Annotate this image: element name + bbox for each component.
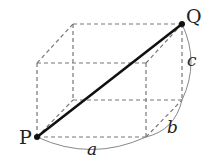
label-a: a (87, 139, 97, 159)
cuboid-svg: P Q a b c (0, 0, 210, 165)
cuboid-diagram: P Q a b c (0, 0, 210, 165)
label-P: P (19, 126, 32, 148)
label-c: c (187, 50, 197, 70)
label-Q: Q (186, 5, 202, 27)
edge-top-left-depth (37, 24, 73, 63)
point-P-dot (34, 134, 40, 140)
label-b: b (167, 117, 178, 137)
point-Q-dot (179, 21, 185, 27)
diagonal-PQ (37, 24, 182, 137)
